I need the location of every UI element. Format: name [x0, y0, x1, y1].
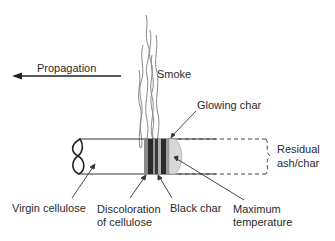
- virgin-cellulose-label: Virgin cellulose: [12, 202, 86, 215]
- max-temp-label-line1: Maximum: [233, 203, 281, 216]
- residual-label-line2: ash/char: [277, 157, 319, 170]
- glowing-char-label: Glowing char: [197, 99, 261, 112]
- propagation-label: Propagation: [37, 62, 96, 75]
- smoke-icon: [139, 15, 159, 148]
- discoloration-label-line2: of cellulose: [97, 216, 152, 229]
- residual-label-line1: Residual: [277, 143, 320, 156]
- smoke-label: Smoke: [157, 68, 191, 81]
- black-char-label: Black char: [170, 202, 221, 215]
- discoloration-label-line1: Discoloration: [97, 203, 161, 216]
- residual-ash-outline: [178, 139, 270, 174]
- max-temp-label-line2: temperature: [233, 216, 292, 229]
